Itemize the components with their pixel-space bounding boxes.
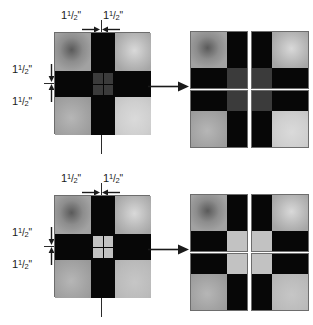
edge-cell-middle-left — [55, 71, 91, 97]
edge-cell-middle-right — [115, 71, 151, 97]
quadrant-large-patch — [272, 274, 308, 310]
quadrant-top-right — [251, 31, 309, 89]
corner-patch-bottom-left — [55, 97, 91, 135]
quadrant-small-patch — [227, 254, 247, 274]
quadrant-black-cell — [272, 254, 308, 274]
quadrant-large-patch — [272, 195, 308, 231]
quadrant-top-right — [251, 194, 309, 252]
quadrant-top-left — [190, 31, 248, 89]
quadrant-top-left — [190, 194, 248, 252]
diagram-bottom: 11/2" 11/2" 11/2" 11/2" — [0, 163, 313, 325]
mini-square-bottom-left — [93, 248, 103, 259]
corner-patch-bottom-right — [115, 97, 151, 135]
quadrant-black-cell — [252, 32, 272, 68]
edge-cell-middle-right — [115, 234, 151, 260]
quadrant-bottom-right — [251, 90, 309, 148]
quadrant-bottom-right — [251, 253, 309, 311]
corner-patch-bottom-right — [115, 260, 151, 298]
quadrant-large-patch — [191, 274, 227, 310]
quadrant-large-patch — [191, 195, 227, 231]
corner-patch-top-right — [115, 33, 151, 71]
mini-square-top-right — [104, 73, 114, 84]
quadrant-large-patch — [191, 32, 227, 68]
quadrant-small-patch — [227, 91, 247, 111]
quadrant-black-cell — [227, 32, 247, 68]
quadrant-large-patch — [191, 111, 227, 147]
dimension-label-left-lower: 11/2" — [12, 258, 32, 270]
quadrant-small-patch — [252, 68, 272, 88]
quadrant-black-cell — [227, 195, 247, 231]
quadrant-small-patch — [252, 254, 272, 274]
quadrant-small-patch — [252, 91, 272, 111]
quadrant-black-cell — [191, 231, 227, 251]
dimension-label-top-left: 11/2" — [61, 9, 81, 21]
edge-cell-middle-left — [55, 234, 91, 260]
center-guideline-vertical-lower — [101, 134, 102, 154]
transfer-arrow-icon — [148, 80, 190, 93]
edge-cell-top-center — [91, 33, 115, 71]
corner-patch-top-left — [55, 196, 91, 234]
edge-cell-top-center — [91, 196, 115, 234]
corner-patch-top-left — [55, 33, 91, 71]
quadrant-black-cell — [252, 111, 272, 147]
quadrant-black-cell — [272, 68, 308, 88]
mini-square-top-left — [93, 73, 103, 84]
mini-square-bottom-right — [104, 85, 114, 96]
dimension-label-top-right: 11/2" — [103, 172, 123, 184]
mini-square-bottom-left — [93, 85, 103, 96]
corner-patch-top-right — [115, 196, 151, 234]
quadrant-bottom-left — [190, 90, 248, 148]
diagram-top: 11/2" 11/2" 11/2" 11/2" — [0, 0, 313, 162]
quadrant-small-patch — [227, 68, 247, 88]
quadrant-large-patch — [272, 32, 308, 68]
mini-square-top-left — [93, 236, 103, 247]
quadrant-black-cell — [272, 231, 308, 251]
edge-cell-bottom-center — [91, 97, 115, 135]
mini-square-top-right — [104, 236, 114, 247]
corner-patch-bottom-left — [55, 260, 91, 298]
transfer-arrow-icon — [148, 243, 190, 256]
dimension-label-top-right: 11/2" — [103, 9, 123, 21]
main-block — [54, 195, 150, 297]
dimension-label-left-upper: 11/2" — [12, 226, 32, 238]
dimension-label-top-left: 11/2" — [61, 172, 81, 184]
quadrant-black-cell — [191, 254, 227, 274]
quadrant-small-patch — [227, 231, 247, 251]
quadrant-black-cell — [272, 91, 308, 111]
quadrant-black-cell — [191, 68, 227, 88]
mini-square-bottom-right — [104, 248, 114, 259]
quadrant-black-cell — [227, 274, 247, 310]
main-block — [54, 32, 150, 134]
quadrant-black-cell — [191, 91, 227, 111]
quadrant-bottom-left — [190, 253, 248, 311]
center-guideline-vertical-lower — [101, 297, 102, 317]
quadrant-large-patch — [272, 111, 308, 147]
quadrant-black-cell — [227, 111, 247, 147]
edge-cell-bottom-center — [91, 260, 115, 298]
quadrant-black-cell — [252, 195, 272, 231]
center-mini-grid — [91, 71, 115, 97]
quadrant-black-cell — [252, 274, 272, 310]
quadrant-small-patch — [252, 231, 272, 251]
center-mini-grid — [91, 234, 115, 260]
dimension-label-left-lower: 11/2" — [12, 95, 32, 107]
dimension-label-left-upper: 11/2" — [12, 63, 32, 75]
